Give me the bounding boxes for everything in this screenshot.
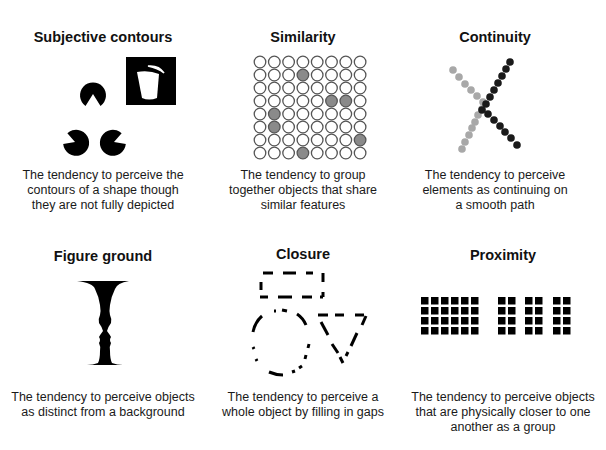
panel-caption: The tendency to perceive the contours of… [0,168,213,213]
caption-line: The tendency to perceive [385,168,605,183]
panel-caption: The tendency to group together objects t… [193,168,413,213]
caption-line: The tendency to perceive the [0,168,213,183]
caption-line: The tendency to perceive objects [393,390,606,405]
panel-title: Similarity [203,29,403,45]
panel-title: Proximity [403,247,603,263]
caption-line: that are physically closer to one [393,405,606,420]
panel-caption: The tendency to perceive objects as dist… [0,390,213,420]
caption-line: contours of a shape though [0,183,213,198]
kanizsa-triangle-icon [3,52,203,162]
similarity-dot-grid-icon [253,55,373,160]
panel-title: Figure ground [3,248,203,264]
caption-line: The tendency to perceive a [193,390,413,405]
caption-line: The tendency to group [193,168,413,183]
caption-line: as distinct from a background [0,405,213,420]
caption-line: another as a group [393,420,606,435]
rubin-vase-icon [65,275,145,375]
caption-line: similar features [193,198,413,213]
caption-line: The tendency to perceive objects [0,390,213,405]
panel-title: Subjective contours [3,29,203,45]
caption-line: a smooth path [385,198,605,213]
caption-line: elements as continuing on [385,183,605,198]
panel-title: Continuity [395,29,595,45]
caption-line: they are not fully depicted [0,198,213,213]
panel-caption: The tendency to perceive elements as con… [385,168,605,213]
closure-dashed-shapes-icon [240,260,380,385]
proximity-square-groups-icon [417,297,587,347]
caption-line: whole object by filling in gaps [193,405,413,420]
panel-caption: The tendency to perceive objects that ar… [393,390,606,435]
caption-line: together objects that share [193,183,413,198]
panel-caption: The tendency to perceive a whole object … [193,390,413,420]
continuity-dotted-x-icon [435,50,555,170]
